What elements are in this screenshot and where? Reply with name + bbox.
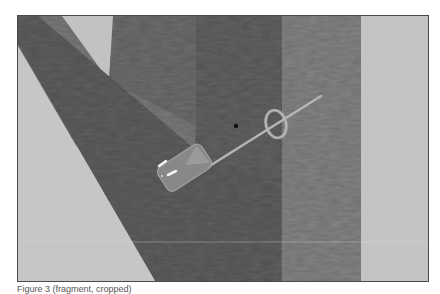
scene-canvas xyxy=(18,16,428,281)
dark-dot-marker xyxy=(234,124,238,128)
figure-caption: Figure 3 (fragment, cropped) xyxy=(17,284,132,294)
tip-point xyxy=(161,175,163,177)
right-vertical-beam xyxy=(280,16,361,281)
scene-figure xyxy=(17,15,429,282)
